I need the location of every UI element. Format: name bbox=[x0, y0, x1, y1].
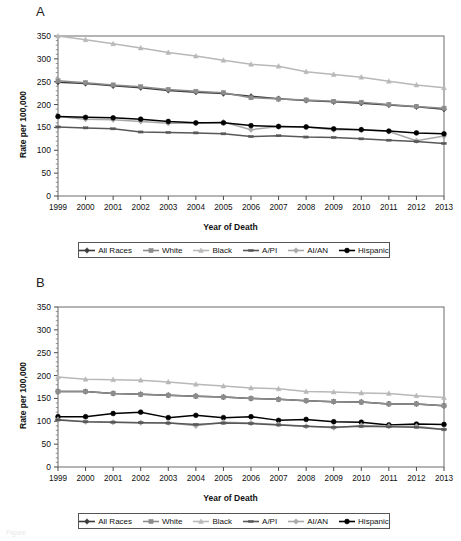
panel-b-legend: All RacesWhiteBlackA/PIAI/ANHispanic bbox=[78, 513, 390, 529]
legend-marker-triangle-icon bbox=[193, 517, 209, 526]
panel-b-x-axis-title: Year of Death bbox=[0, 493, 461, 503]
svg-text:100: 100 bbox=[37, 145, 51, 155]
svg-text:250: 250 bbox=[37, 77, 51, 87]
legend-item-white: White bbox=[143, 517, 182, 526]
legend-label: All Races bbox=[98, 517, 132, 526]
svg-text:2002: 2002 bbox=[132, 474, 151, 483]
panel-a-svg: 0501001502002503003501999200020012002200… bbox=[0, 0, 461, 240]
svg-text:2006: 2006 bbox=[242, 203, 261, 212]
svg-text:150: 150 bbox=[37, 393, 51, 403]
legend-label: AI/AN bbox=[307, 517, 328, 526]
legend-item-white: White bbox=[143, 246, 182, 255]
legend-item-all-races: All Races bbox=[79, 246, 132, 255]
svg-text:300: 300 bbox=[37, 54, 51, 64]
svg-text:2011: 2011 bbox=[380, 474, 398, 483]
svg-text:2012: 2012 bbox=[407, 203, 426, 212]
svg-text:2000: 2000 bbox=[76, 203, 95, 212]
legend-marker-square-icon bbox=[143, 517, 159, 526]
svg-text:50: 50 bbox=[42, 168, 52, 178]
svg-text:0: 0 bbox=[46, 462, 51, 472]
svg-text:2008: 2008 bbox=[297, 203, 316, 212]
legend-item-all-races: All Races bbox=[79, 517, 132, 526]
svg-text:2010: 2010 bbox=[352, 203, 371, 212]
legend-marker-bar-icon bbox=[243, 246, 259, 255]
svg-text:2003: 2003 bbox=[159, 203, 178, 212]
svg-text:2008: 2008 bbox=[297, 474, 316, 483]
svg-text:2005: 2005 bbox=[214, 474, 233, 483]
legend-label: White bbox=[162, 517, 182, 526]
svg-text:2001: 2001 bbox=[104, 203, 123, 212]
legend-label: Black bbox=[212, 517, 232, 526]
svg-text:1999: 1999 bbox=[49, 203, 68, 212]
svg-text:2007: 2007 bbox=[269, 203, 288, 212]
svg-text:2007: 2007 bbox=[269, 474, 288, 483]
legend-item-a-pi: A/PI bbox=[243, 246, 277, 255]
svg-text:2006: 2006 bbox=[242, 474, 261, 483]
panel-a-x-axis-title: Year of Death bbox=[0, 222, 461, 232]
svg-text:100: 100 bbox=[37, 416, 51, 426]
svg-text:150: 150 bbox=[37, 122, 51, 132]
svg-text:2004: 2004 bbox=[187, 203, 206, 212]
svg-text:350: 350 bbox=[37, 31, 51, 41]
figure-caption: Figure bbox=[6, 529, 26, 536]
legend-label: Hispanic bbox=[358, 246, 389, 255]
svg-text:50: 50 bbox=[42, 439, 52, 449]
svg-text:2011: 2011 bbox=[380, 203, 398, 212]
legend-label: White bbox=[162, 246, 182, 255]
svg-text:2010: 2010 bbox=[352, 474, 371, 483]
legend-marker-diamond-icon bbox=[288, 517, 304, 526]
svg-text:2002: 2002 bbox=[132, 203, 151, 212]
legend-marker-diamond-icon bbox=[79, 517, 95, 526]
panel-a-legend: All RacesWhiteBlackA/PIAI/ANHispanic bbox=[78, 242, 390, 258]
svg-text:2003: 2003 bbox=[159, 474, 178, 483]
legend-item-hispanic: Hispanic bbox=[339, 246, 389, 255]
svg-text:1999: 1999 bbox=[49, 474, 68, 483]
svg-text:2009: 2009 bbox=[325, 474, 344, 483]
panel-b: B 05010015020025030035019992000200120022… bbox=[0, 271, 461, 541]
panel-b-y-axis-title: Rate per 100,000 bbox=[18, 362, 28, 429]
svg-text:200: 200 bbox=[37, 100, 51, 110]
panel-b-svg: 0501001502002503003501999200020012002200… bbox=[0, 271, 461, 511]
svg-text:350: 350 bbox=[37, 302, 51, 312]
legend-label: AI/AN bbox=[307, 246, 328, 255]
legend-item-black: Black bbox=[193, 246, 232, 255]
legend-label: A/PI bbox=[262, 517, 277, 526]
panel-a-y-axis-title: Rate per 100,000 bbox=[18, 91, 28, 158]
svg-text:0: 0 bbox=[46, 191, 51, 201]
legend-marker-triangle-icon bbox=[193, 246, 209, 255]
legend-label: Black bbox=[212, 246, 232, 255]
svg-text:2012: 2012 bbox=[407, 474, 426, 483]
legend-marker-circle-icon bbox=[339, 246, 355, 255]
svg-text:2000: 2000 bbox=[76, 474, 95, 483]
legend-marker-circle-icon bbox=[339, 517, 355, 526]
svg-text:2001: 2001 bbox=[104, 474, 123, 483]
legend-item-black: Black bbox=[193, 517, 232, 526]
legend-marker-bar-icon bbox=[243, 517, 259, 526]
legend-label: Hispanic bbox=[358, 517, 389, 526]
legend-label: A/PI bbox=[262, 246, 277, 255]
legend-item-ai-an: AI/AN bbox=[288, 517, 328, 526]
legend-marker-diamond-icon bbox=[79, 246, 95, 255]
svg-text:2005: 2005 bbox=[214, 203, 233, 212]
legend-item-hispanic: Hispanic bbox=[339, 517, 389, 526]
svg-text:2013: 2013 bbox=[435, 474, 454, 483]
legend-item-ai-an: AI/AN bbox=[288, 246, 328, 255]
svg-text:2004: 2004 bbox=[187, 474, 206, 483]
svg-text:2013: 2013 bbox=[435, 203, 454, 212]
svg-text:250: 250 bbox=[37, 348, 51, 358]
legend-marker-square-icon bbox=[143, 246, 159, 255]
svg-text:200: 200 bbox=[37, 371, 51, 381]
legend-item-a-pi: A/PI bbox=[243, 517, 277, 526]
legend-marker-diamond-icon bbox=[288, 246, 304, 255]
svg-text:300: 300 bbox=[37, 325, 51, 335]
panel-a: A 05010015020025030035019992000200120022… bbox=[0, 0, 461, 270]
legend-label: All Races bbox=[98, 246, 132, 255]
svg-text:2009: 2009 bbox=[325, 203, 344, 212]
